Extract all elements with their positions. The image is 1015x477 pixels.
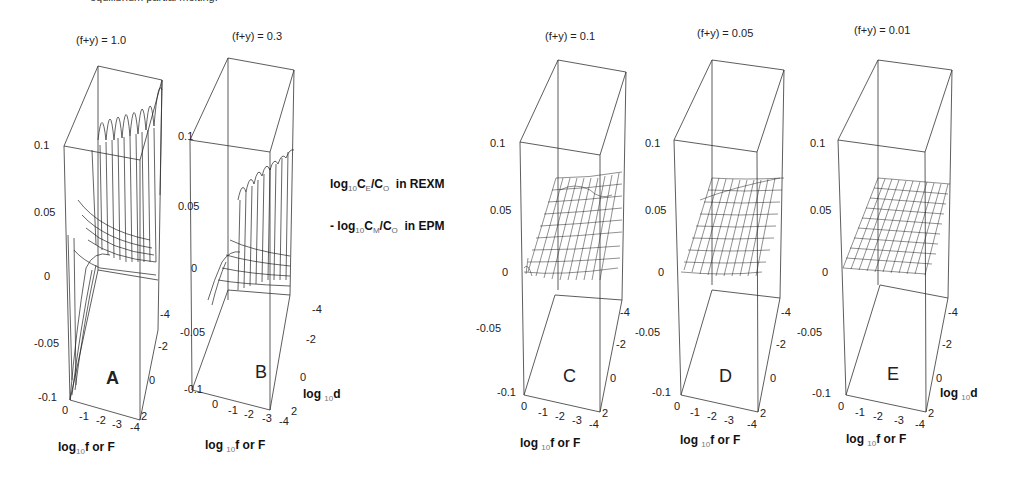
x-tick: -3 [724, 414, 734, 426]
z-tick: -0.1 [38, 391, 57, 403]
z-tick: 0 [822, 266, 828, 278]
y-tick: 2 [602, 407, 608, 419]
x-axis-label-a: log10f or F [58, 440, 115, 456]
z-tick: 0.05 [810, 204, 831, 216]
panel-b-letter: B [255, 362, 267, 383]
y-tick: 2 [291, 405, 297, 417]
y-tick: 2 [760, 407, 766, 419]
x-tick: -4 [915, 418, 925, 430]
x-tick: 0 [62, 404, 68, 416]
x-tick: -2 [244, 408, 254, 420]
panel-d-letter: D [719, 366, 732, 387]
y-tick: -2 [306, 333, 316, 345]
panel-a-letter: A [106, 368, 119, 389]
x-axis-label-b: log 10f or F [205, 438, 265, 454]
z-tick: -0.1 [184, 383, 203, 395]
y-tick: -4 [948, 306, 958, 318]
z-tick: 0 [502, 266, 508, 278]
z-tick: -0.05 [476, 322, 501, 334]
z-tick: 0.1 [490, 137, 505, 149]
z-tick: 0.05 [178, 200, 199, 212]
x-tick: -1 [79, 410, 89, 422]
y-tick: -4 [312, 303, 322, 315]
x-tick: -1 [538, 406, 548, 418]
panel-e-letter: E [887, 364, 899, 385]
x-tick: 0 [838, 400, 844, 412]
y-tick: 0 [770, 372, 776, 384]
z-tick: -0.1 [812, 387, 831, 399]
x-tick: -3 [572, 414, 582, 426]
z-tick: -0.1 [652, 386, 671, 398]
z-tick: -0.05 [797, 326, 822, 338]
z-tick: 0 [191, 262, 197, 274]
y-tick: -4 [781, 306, 791, 318]
z-tick: 0.05 [490, 204, 511, 216]
x-tick: -2 [555, 410, 565, 422]
x-tick: -2 [873, 410, 883, 422]
x-tick: -1 [690, 406, 700, 418]
x-tick: -3 [894, 414, 904, 426]
x-tick: -4 [279, 415, 289, 427]
x-tick: -4 [589, 418, 599, 430]
x-tick: -1 [855, 406, 865, 418]
y-tick: 0 [610, 372, 616, 384]
y-tick: 2 [928, 407, 934, 419]
panel-b-plot [190, 58, 294, 410]
y-tick: -4 [160, 308, 170, 320]
x-tick: -4 [130, 421, 140, 433]
z-tick: -0.05 [34, 337, 59, 349]
y-axis-label-e: log 10d [940, 386, 978, 402]
z-tick: -0.1 [497, 386, 516, 398]
x-axis-label-d: log 10f or F [680, 433, 740, 449]
z-tick: 0 [658, 266, 664, 278]
x-axis-label-c: log 10f or F [520, 436, 580, 452]
x-tick: -2 [96, 414, 106, 426]
z-tick: -0.05 [180, 326, 205, 338]
x-tick: -3 [262, 412, 272, 424]
x-tick: -3 [112, 418, 122, 430]
panel-e-title: (f+y) = 0.01 [854, 24, 910, 36]
x-tick: -2 [707, 410, 717, 422]
y-tick: -2 [776, 338, 786, 350]
z-tick: 0.05 [645, 204, 666, 216]
y-tick: 2 [141, 410, 147, 422]
x-tick: 0 [674, 400, 680, 412]
z-tick: 0.1 [178, 130, 193, 142]
y-tick: 0 [300, 371, 306, 383]
y-tick: 0 [149, 374, 155, 386]
panel-c-title: (f+y) = 0.1 [545, 30, 595, 42]
z-tick: 0.1 [34, 139, 49, 151]
panel-d-plot [674, 60, 784, 412]
y-tick: -4 [620, 306, 630, 318]
x-axis-label-e: log 10f or F [846, 432, 906, 448]
x-tick: 0 [212, 398, 218, 410]
panel-a-plot [64, 66, 162, 420]
y-tick: -2 [616, 338, 626, 350]
legend-rexm: log10CE/CO in REXM [330, 177, 445, 193]
y-tick: -2 [158, 340, 168, 352]
x-tick: -1 [228, 404, 238, 416]
panel-c-letter: C [563, 366, 576, 387]
y-tick: -2 [942, 338, 952, 350]
x-tick: 0 [521, 400, 527, 412]
panel-e-plot [838, 60, 952, 412]
panel-a-title: (f+y) = 1.0 [76, 34, 126, 46]
y-axis-label-b: log 10d [303, 387, 341, 403]
x-tick: -4 [747, 418, 757, 430]
y-tick: 0 [936, 372, 942, 384]
z-tick: 0 [44, 270, 50, 282]
panel-b-title: (f+y) = 0.3 [232, 30, 282, 42]
z-tick: 0.05 [34, 206, 55, 218]
z-tick: -0.05 [635, 326, 660, 338]
z-tick: 0.1 [810, 137, 825, 149]
panel-d-title: (f+y) = 0.05 [697, 27, 753, 39]
z-tick: 0.1 [645, 137, 660, 149]
panel-c-plot [520, 60, 626, 412]
legend-epm: - log10CM/CO in EPM [330, 219, 445, 235]
